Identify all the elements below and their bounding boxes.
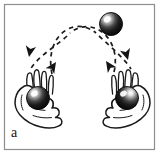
right-hand-finger-4 — [112, 75, 117, 94]
left-hand-ball — [27, 87, 50, 110]
figure-illustration — [0, 0, 165, 160]
airborne-ball — [100, 13, 123, 36]
right-hand-ball — [116, 87, 139, 110]
panel-label: a — [11, 126, 17, 140]
figure-panel: a — [0, 0, 165, 160]
left-hand-finger-4 — [48, 75, 53, 94]
